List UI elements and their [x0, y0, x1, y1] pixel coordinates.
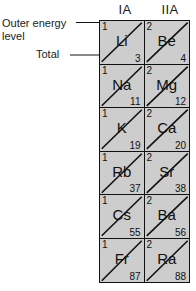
- atomic-number: 88: [175, 271, 186, 282]
- element-cell[interactable]: 1 Li 3: [100, 21, 145, 65]
- element-symbol: Cs: [100, 207, 144, 223]
- atomic-number: 38: [175, 183, 186, 194]
- element-cell[interactable]: 2 Ca 20: [145, 108, 190, 152]
- element-symbol: Li: [100, 33, 144, 49]
- element-symbol: Be: [145, 33, 190, 49]
- element-symbol: Fr: [100, 251, 144, 267]
- element-symbol: Na: [100, 77, 144, 93]
- outer-shell-electrons: 1: [102, 152, 108, 163]
- element-cell[interactable]: 1 Cs 55: [100, 195, 145, 239]
- outer-shell-electrons: 2: [147, 21, 153, 32]
- outer-shell-electrons: 1: [102, 108, 108, 119]
- element-cell[interactable]: 2 Sr 38: [145, 152, 190, 196]
- outer-shell-electrons: 2: [147, 239, 153, 250]
- atomic-number: 12: [175, 96, 186, 107]
- outer-shell-electrons: 1: [102, 195, 108, 206]
- element-cell[interactable]: 2 Be 4: [145, 21, 190, 65]
- periodic-table-figure: IA IIA Outer energy level Total 1 Li 3 2…: [0, 0, 196, 291]
- column-header-group-IIA: IIA: [150, 3, 190, 16]
- atomic-number: 4: [180, 53, 186, 64]
- element-symbol: Ra: [145, 251, 190, 267]
- atomic-number: 87: [129, 271, 140, 282]
- annotation-outer-energy-level: Outer energy level: [2, 17, 76, 42]
- outer-shell-electrons: 2: [147, 108, 153, 119]
- element-symbol: Ba: [145, 207, 190, 223]
- element-cell[interactable]: 1 Na 11: [100, 65, 145, 109]
- outer-shell-electrons: 2: [147, 152, 153, 163]
- element-cell[interactable]: 2 Mg 12: [145, 65, 190, 109]
- annotation-total: Total: [36, 48, 59, 61]
- element-symbol: Sr: [145, 164, 190, 180]
- atomic-number: 11: [130, 96, 140, 107]
- outer-shell-electrons: 2: [147, 65, 153, 76]
- outer-shell-electrons: 1: [102, 65, 108, 76]
- element-symbol: Mg: [145, 77, 190, 93]
- atomic-number: 55: [129, 227, 140, 238]
- outer-shell-electrons: 1: [102, 21, 108, 32]
- outer-shell-electrons: 2: [147, 195, 153, 206]
- atomic-number: 56: [175, 227, 186, 238]
- element-symbol: Ca: [145, 120, 190, 136]
- atomic-number: 3: [135, 53, 141, 64]
- atomic-number: 20: [175, 140, 186, 151]
- element-symbol: Rb: [100, 164, 144, 180]
- column-header-group-IA: IA: [105, 3, 145, 16]
- element-cell[interactable]: 2 Ra 88: [145, 239, 190, 283]
- atomic-number: 19: [129, 140, 140, 151]
- element-cell[interactable]: 2 Ba 56: [145, 195, 190, 239]
- outer-shell-electrons: 1: [102, 239, 108, 250]
- element-cell[interactable]: 1 K 19: [100, 108, 145, 152]
- element-cell[interactable]: 1 Fr 87: [100, 239, 145, 283]
- element-grid: 1 Li 3 2 Be 4 1 Na 11 2 Mg 12: [99, 20, 190, 283]
- element-symbol: K: [100, 120, 144, 136]
- element-cell[interactable]: 1 Rb 37: [100, 152, 145, 196]
- atomic-number: 37: [129, 183, 140, 194]
